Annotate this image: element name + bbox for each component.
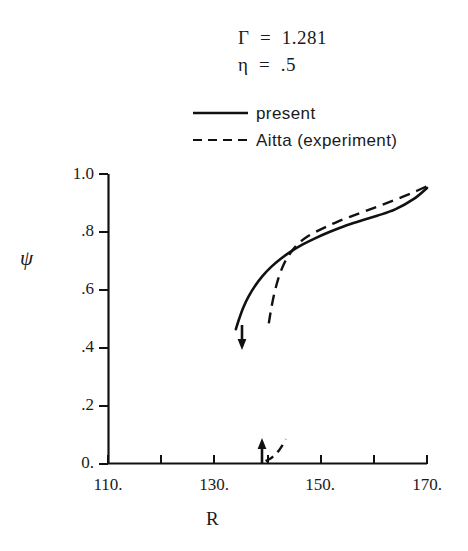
data-series-group xyxy=(236,186,427,461)
axis-lines xyxy=(108,174,427,464)
xtick-label-110: 110. xyxy=(78,475,138,495)
ytick-label-0_8: .8 xyxy=(42,221,94,241)
y-axis-title: ψ xyxy=(20,246,33,271)
ytick-label-0_6: .6 xyxy=(42,279,94,299)
ytick-label-0_4: .4 xyxy=(42,337,94,357)
arrow-down-marker xyxy=(238,325,247,350)
legend-sample-lines xyxy=(193,113,248,140)
y-axis-ticks xyxy=(99,174,108,464)
x-axis-title: R xyxy=(206,508,219,530)
legend-entry-present-label: present xyxy=(256,104,316,124)
ytick-label-1_0: 1.0 xyxy=(42,164,94,184)
series-line-present xyxy=(236,188,427,329)
annotation-arrows xyxy=(238,325,267,463)
xtick-label-170: 170. xyxy=(397,475,457,495)
annotation-gamma: Γ = 1.281 xyxy=(238,27,327,49)
figure-panel: Γ = 1.281 η = .5 present Aitta (experime… xyxy=(0,0,468,551)
ytick-label-0_2: .2 xyxy=(42,395,94,415)
annotation-eta: η = .5 xyxy=(238,54,296,76)
xtick-label-130: 130. xyxy=(184,475,244,495)
legend-entry-aitta-label: Aitta (experiment) xyxy=(256,131,397,151)
ytick-label-0: 0. xyxy=(42,453,94,473)
xtick-label-150: 150. xyxy=(290,475,350,495)
arrow-up-marker xyxy=(258,438,267,463)
